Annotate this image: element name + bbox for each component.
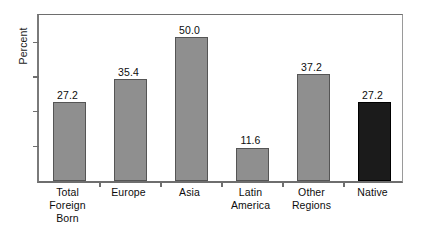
bar: [175, 37, 208, 181]
bar: [114, 79, 147, 181]
y-axis-tick: [33, 146, 39, 148]
y-axis-tick: [33, 42, 39, 44]
x-axis-category-label-line: Asia: [156, 186, 224, 199]
x-axis-category-label-line: Foreign: [34, 199, 102, 212]
x-axis-category-label-line: Total: [34, 186, 102, 199]
bar-value-label: 27.2: [343, 89, 403, 101]
bar-chart-figure: Percent 27.2TotalForeignBorn35.4Europe50…: [0, 0, 423, 234]
x-axis-category-label: OtherRegions: [278, 186, 346, 212]
x-axis-category-label-line: Europe: [95, 186, 163, 199]
bar: [53, 102, 86, 181]
x-axis-category-label-line: Other: [278, 186, 346, 199]
x-axis-category-label: TotalForeignBorn: [34, 186, 102, 226]
x-axis-category-label-line: Latin: [217, 186, 285, 199]
x-axis-category-label: LatinAmerica: [217, 186, 285, 212]
x-axis-category-label: Asia: [156, 186, 224, 199]
bar-value-label: 50.0: [160, 24, 220, 36]
y-axis-tick: [33, 111, 39, 113]
x-axis-category-label-line: Native: [339, 186, 407, 199]
x-axis-category-label-line: Born: [34, 212, 102, 225]
x-axis-category-label-line: America: [217, 199, 285, 212]
x-axis-category-label-line: Regions: [278, 199, 346, 212]
bar: [297, 74, 330, 181]
y-axis-title: Percent: [17, 6, 33, 86]
bar-value-label: 11.6: [221, 134, 281, 146]
bar-value-label: 35.4: [99, 66, 159, 78]
x-axis-category-label: Europe: [95, 186, 163, 199]
bar: [358, 102, 391, 181]
bar-value-label: 37.2: [282, 61, 342, 73]
y-axis-tick: [33, 76, 39, 78]
bar: [236, 148, 269, 182]
x-axis-category-label: Native: [339, 186, 407, 199]
bar-value-label: 27.2: [38, 89, 98, 101]
